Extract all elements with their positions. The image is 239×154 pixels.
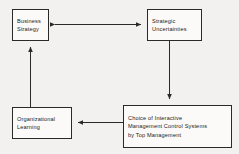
node-strategic-uncertainties[interactable]: Strategic Uncertainties (147, 9, 202, 41)
node-organizational-learning-line-1: Organizational (17, 115, 67, 123)
node-choice-of-interactive-management-control-systems[interactable]: Choice of Interactive Management Control… (123, 105, 232, 148)
node-choice-line-1: Choice of Interactive (128, 114, 227, 122)
node-business-strategy[interactable]: Business Strategy (12, 9, 49, 41)
node-strategic-uncertainties-line-2: Uncertainties (152, 25, 197, 33)
node-organizational-learning-line-2: Learning (17, 123, 67, 131)
node-choice-line-2: Management Control Systems (128, 122, 227, 130)
node-organizational-learning[interactable]: Organizational Learning (12, 107, 72, 139)
node-business-strategy-line-2: Strategy (17, 25, 44, 33)
node-choice-line-3: by Top Management (128, 131, 227, 139)
diagram-canvas: Business Strategy Strategic Uncertaintie… (0, 0, 239, 154)
node-business-strategy-line-1: Business (17, 17, 44, 25)
node-strategic-uncertainties-line-1: Strategic (152, 17, 197, 25)
